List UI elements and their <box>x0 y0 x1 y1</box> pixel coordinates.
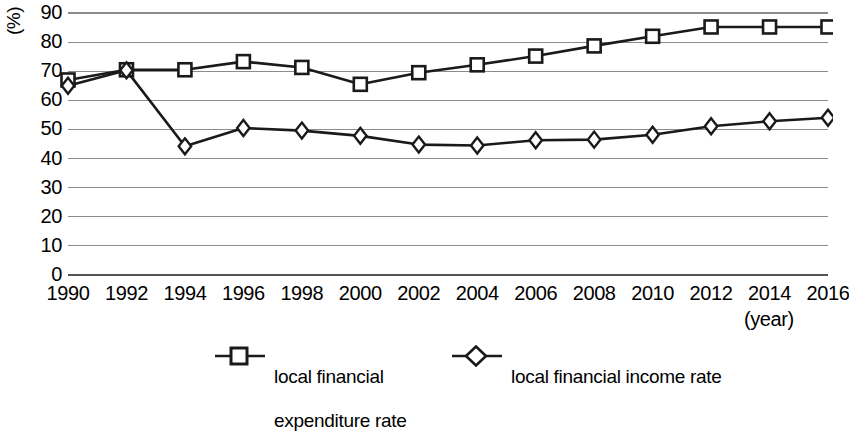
x-axis-tick-label: 2014 <box>748 281 791 305</box>
data-point-square <box>529 50 542 63</box>
legend-item-expenditure-rate: local financial expenditure rate <box>213 344 407 432</box>
data-point-diamond <box>529 132 541 148</box>
data-point-square <box>471 58 484 71</box>
x-axis-tick-label: 1994 <box>163 281 206 305</box>
diamond-marker-icon <box>450 345 504 367</box>
data-point-square <box>763 20 776 33</box>
data-point-square <box>412 66 425 79</box>
data-point-diamond <box>413 137 425 153</box>
data-point-diamond <box>354 128 366 144</box>
legend-label-income-rate-line1: local financial income rate <box>511 366 722 387</box>
data-point-diamond <box>237 120 249 136</box>
data-point-diamond <box>471 137 483 153</box>
data-point-diamond <box>588 132 600 148</box>
x-axis-tick-label: 2012 <box>690 281 733 305</box>
data-point-square <box>295 61 308 74</box>
x-axis-tick-label: 2010 <box>631 281 674 305</box>
x-axis-tick-label: 2006 <box>514 281 557 305</box>
x-axis-tick-label: 2000 <box>339 281 382 305</box>
data-point-square <box>822 20 834 33</box>
data-point-diamond <box>296 123 308 139</box>
data-point-square <box>705 20 718 33</box>
data-point-square <box>646 30 659 43</box>
data-point-square <box>588 39 601 52</box>
x-axis-tick-labels: 1990199219941996199820002002200420062008… <box>68 281 828 311</box>
legend-label-expenditure-rate-line1: local financial <box>274 366 384 387</box>
x-axis-unit-label: (year) <box>744 308 794 331</box>
series-line-diamond <box>68 70 828 146</box>
data-point-diamond <box>822 110 833 126</box>
legend-label-expenditure-rate: local financial expenditure rate <box>274 344 407 432</box>
legend-label-income-rate: local financial income rate <box>511 344 722 388</box>
data-point-diamond <box>705 118 717 134</box>
x-axis-tick-label: 2016 <box>807 281 849 305</box>
data-point-square <box>237 55 250 68</box>
x-axis-tick-label: 2008 <box>573 281 616 305</box>
square-marker-icon <box>213 345 267 367</box>
x-axis-tick-label: 2004 <box>456 281 499 305</box>
x-axis-tick-label: 2002 <box>397 281 440 305</box>
legend-label-expenditure-rate-line2: expenditure rate <box>274 410 407 431</box>
legend-item-income-rate: local financial income rate <box>450 344 722 388</box>
chart-legend: local financial expenditure rate local f… <box>0 344 833 388</box>
x-axis-tick-label: 1996 <box>222 281 265 305</box>
x-axis-tick-label: 1990 <box>47 281 90 305</box>
data-point-diamond <box>763 113 775 129</box>
x-axis-tick-label: 1992 <box>105 281 148 305</box>
x-axis-tick-label: 1998 <box>280 281 323 305</box>
data-point-square <box>354 78 367 91</box>
data-point-square <box>178 63 191 76</box>
